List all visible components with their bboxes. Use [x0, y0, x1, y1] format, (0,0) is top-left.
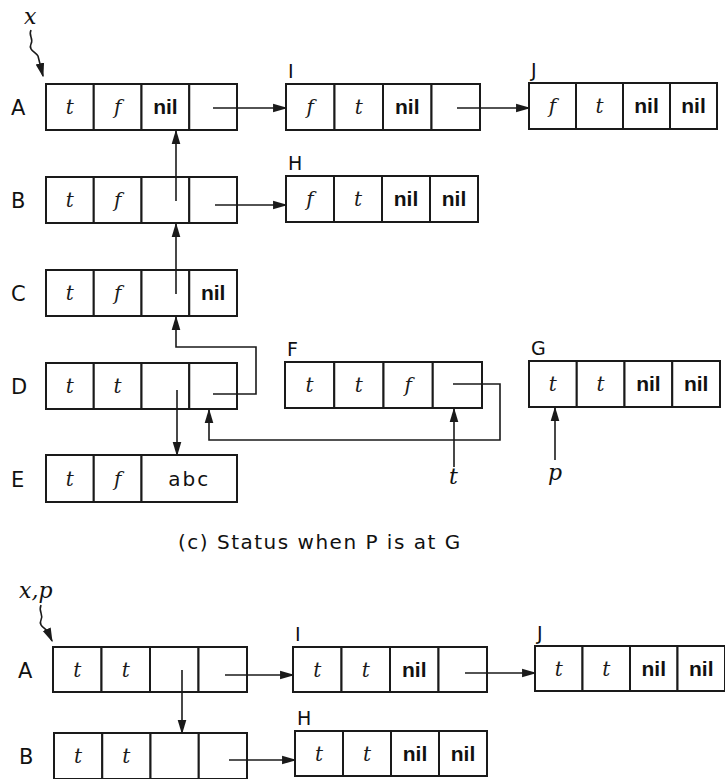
cell-value: t [363, 742, 372, 766]
node-label: H [297, 707, 311, 729]
node-label: A [11, 96, 26, 120]
cell-value: t [66, 281, 75, 305]
cell-value: nil [153, 95, 178, 118]
cell-value: t [66, 374, 75, 398]
cell-value: t [355, 95, 364, 119]
cell-value: nil [442, 187, 467, 210]
cell [199, 647, 248, 692]
cell-value: t [602, 657, 611, 681]
cell-value: t [555, 657, 564, 681]
cell-value: t [313, 658, 322, 682]
cell-value: nil [681, 94, 706, 117]
cell-value: t [66, 467, 75, 491]
node-label: A [18, 659, 33, 683]
cell [189, 363, 237, 409]
cell-value: nil [636, 372, 661, 395]
cell-value: t [122, 744, 131, 768]
squiggle-arrow-x [30, 30, 43, 76]
cell [142, 270, 190, 316]
cell [199, 733, 247, 779]
node-top-F: ttfF [285, 338, 482, 408]
node-top-J: ftnilnilJ [529, 59, 717, 129]
node-label: B [19, 745, 33, 769]
cell-value: nil [394, 187, 419, 210]
cell [189, 84, 237, 130]
nodes-layer: tfnilAtfBtfnilCttDtfabcEftnilIftnilnilJf… [11, 59, 725, 779]
node-top-G: ttnilnilG [529, 337, 720, 407]
node-bottom-B: ttB [19, 733, 247, 779]
cell-value: nil [395, 95, 420, 118]
node-label: H [288, 152, 302, 174]
node-bottom-I: ttnilI [293, 623, 487, 692]
node-label: C [11, 282, 26, 306]
cell-value: abc [168, 467, 210, 491]
pointer-label-t: t [449, 464, 458, 489]
cell-value: t [315, 742, 324, 766]
node-top-A: tfnilA [11, 84, 237, 130]
node-top-E: tfabcE [11, 455, 237, 502]
cell-value: t [66, 188, 75, 212]
cell [142, 177, 190, 223]
cell-value: t [549, 372, 558, 396]
cell-value: t [122, 658, 131, 682]
cell-value: t [354, 187, 363, 211]
node-bottom-J: ttnilnilJ [535, 622, 725, 691]
cell-value: t [114, 374, 123, 398]
cell-value: nil [201, 281, 226, 304]
node-top-I: ftnilI [286, 60, 480, 130]
cell [151, 733, 199, 779]
pointer-label-x: x [24, 4, 37, 29]
pointer-label-p: p [548, 460, 562, 485]
node-label: G [531, 337, 546, 359]
cell-value: t [66, 95, 75, 119]
squiggle-arrow-xp [40, 605, 52, 641]
cell-value: nil [634, 94, 659, 117]
cell-value: t [74, 744, 83, 768]
node-label: I [288, 60, 294, 82]
cell-value: nil [684, 372, 709, 395]
node-bottom-H: ttnilnilH [295, 707, 487, 776]
cell [142, 363, 190, 409]
cell-value: t [597, 372, 606, 396]
node-top-D: ttD [11, 363, 237, 409]
cell-value: nil [403, 742, 428, 765]
cell-value: t [355, 373, 364, 397]
node-label: J [530, 59, 537, 81]
node-label: F [287, 338, 298, 360]
pointer-label-xp: x,p [19, 578, 52, 603]
cell [150, 647, 199, 692]
cell-value: nil [451, 742, 476, 765]
node-bottom-A: ttA [18, 647, 247, 692]
node-top-B: tfB [11, 177, 237, 223]
node-label: B [11, 189, 25, 213]
cell-value: t [306, 373, 315, 397]
linked-list-diagram: tfnilAtfBtfnilCttDtfabcEftnilIftnilnilJf… [0, 0, 725, 779]
cell [189, 177, 237, 223]
cell-value: nil [402, 658, 427, 681]
node-label: I [295, 623, 301, 645]
cell-value: nil [642, 657, 667, 680]
node-top-C: tfnilC [11, 270, 237, 316]
cell-value: nil [689, 657, 714, 680]
cell-value: t [73, 658, 82, 682]
cell [432, 84, 481, 130]
cell [439, 647, 488, 692]
node-top-H: ftnilnilH [286, 152, 478, 222]
cell-value: t [595, 94, 604, 118]
node-label: D [11, 375, 27, 399]
cell [433, 362, 482, 408]
cell-value: t [362, 658, 371, 682]
figure-caption: (c) Status when P is at G [178, 530, 462, 554]
node-label: E [11, 468, 24, 492]
node-label: J [536, 622, 543, 644]
